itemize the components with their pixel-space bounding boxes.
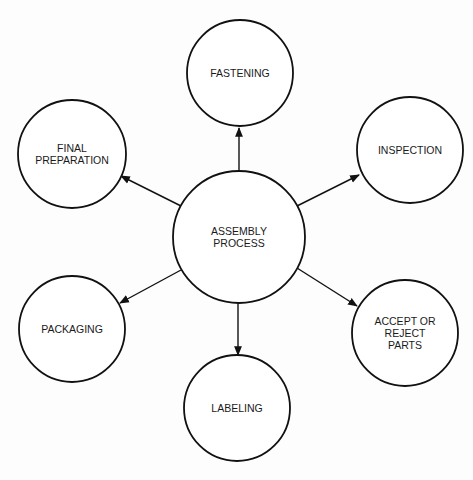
edge-assembly-inspection bbox=[297, 175, 359, 206]
node-assembly-label: ASSEMBLY PROCESS bbox=[173, 171, 305, 303]
node-fastening-label: FASTENING bbox=[187, 20, 293, 126]
node-final-preparation-label: FINAL PREPARATION bbox=[18, 100, 126, 208]
edge-assembly-packaging bbox=[120, 270, 181, 303]
node-packaging-label: PACKAGING bbox=[19, 276, 125, 382]
node-inspection-label: INSPECTION bbox=[357, 97, 463, 203]
edge-assembly-final-preparation bbox=[121, 176, 181, 206]
node-accept-reject-label: ACCEPT OR REJECT PARTS bbox=[352, 280, 458, 386]
edge-assembly-accept-reject bbox=[297, 268, 357, 306]
diagram-canvas: FASTENING INSPECTION ACCEPT OR REJECT PA… bbox=[0, 0, 473, 480]
node-labeling-label: LABELING bbox=[184, 355, 290, 461]
